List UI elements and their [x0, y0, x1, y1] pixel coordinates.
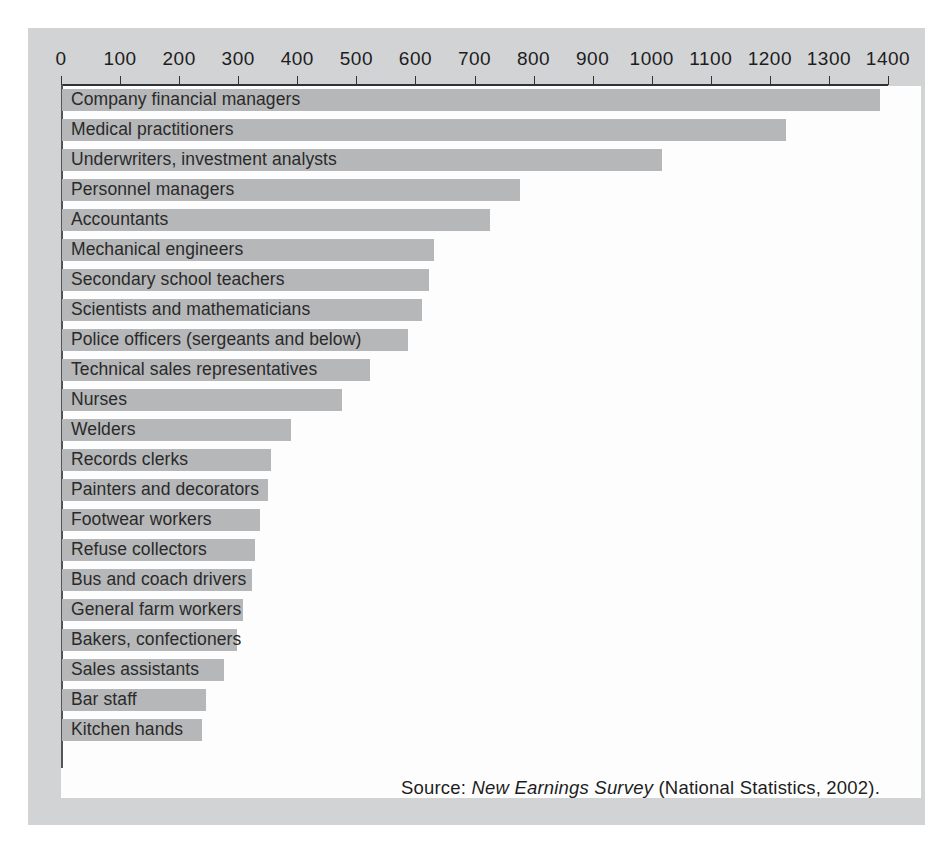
- bar-category-label: Bus and coach drivers: [71, 568, 246, 590]
- bar-category-label: Painters and decorators: [71, 478, 259, 500]
- bar-category-label: Technical sales representatives: [71, 358, 317, 380]
- x-axis-tick: [534, 76, 535, 85]
- bar-category-label: Scientists and mathematicians: [71, 298, 310, 320]
- bar-row: Personnel managers: [62, 178, 922, 208]
- x-axis-tick: [888, 76, 889, 85]
- bar-row: Mechanical engineers: [62, 238, 922, 268]
- bar-row: Records clerks: [62, 448, 922, 478]
- bar-category-label: Medical practitioners: [71, 118, 234, 140]
- bar-category-label: Nurses: [71, 388, 127, 410]
- bar-row: Footwear workers: [62, 508, 922, 538]
- bar-row: Technical sales representatives: [62, 358, 922, 388]
- bar-row: Accountants: [62, 208, 922, 238]
- x-axis-tick-label: 800: [517, 48, 550, 70]
- x-axis-tick: [415, 76, 416, 85]
- x-axis-tick-label: 600: [399, 48, 432, 70]
- bar-category-label: Company financial managers: [71, 88, 300, 110]
- x-axis-tick-label: 300: [222, 48, 255, 70]
- bar-category-label: General farm workers: [71, 598, 241, 620]
- bar-row: Nurses: [62, 388, 922, 418]
- source-title: New Earnings Survey: [471, 777, 653, 798]
- bar-row: Welders: [62, 418, 922, 448]
- bar-row: Kitchen hands: [62, 718, 922, 748]
- x-axis-tick-label: 200: [163, 48, 196, 70]
- x-axis-tick-label: 1200: [748, 48, 792, 70]
- x-axis-tick: [120, 76, 121, 85]
- bar-row: Underwriters, investment analysts: [62, 148, 922, 178]
- bar-row: General farm workers: [62, 598, 922, 628]
- x-axis-tick-label: 1300: [807, 48, 851, 70]
- bar-category-label: Records clerks: [71, 448, 188, 470]
- bar-category-label: Footwear workers: [71, 508, 212, 530]
- bar-category-label: Police officers (sergeants and below): [71, 328, 361, 350]
- x-axis-tick-label: 1000: [630, 48, 674, 70]
- x-axis-tick: [711, 76, 712, 85]
- source-suffix: (National Statistics, 2002).: [658, 777, 880, 798]
- bar-row: Bus and coach drivers: [62, 568, 922, 598]
- x-axis-tick: [652, 76, 653, 85]
- x-axis-tick: [238, 76, 239, 85]
- x-axis-tick-label: 1400: [866, 48, 910, 70]
- bar-category-label: Personnel managers: [71, 178, 234, 200]
- bar-row: Company financial managers: [62, 88, 922, 118]
- bar-category-label: Kitchen hands: [71, 718, 183, 740]
- bar-row: Police officers (sergeants and below): [62, 328, 922, 358]
- bar-series: Company financial managersMedical practi…: [62, 88, 922, 794]
- bar-row: Scientists and mathematicians: [62, 298, 922, 328]
- bar-row: Painters and decorators: [62, 478, 922, 508]
- x-axis-tick: [179, 76, 180, 85]
- x-axis-tick-label: 400: [281, 48, 314, 70]
- bar-category-label: Sales assistants: [71, 658, 199, 680]
- x-axis-tick: [829, 76, 830, 85]
- bar-row: Bakers, confectioners: [62, 628, 922, 658]
- x-axis-tick-label: 500: [340, 48, 373, 70]
- bar-row: Refuse collectors: [62, 538, 922, 568]
- bar-category-label: Refuse collectors: [71, 538, 207, 560]
- x-axis-tick: [297, 76, 298, 85]
- bar-category-label: Welders: [71, 418, 136, 440]
- bar-category-label: Underwriters, investment analysts: [71, 148, 337, 170]
- x-axis-tick: [770, 76, 771, 85]
- bar-row: Secondary school teachers: [62, 268, 922, 298]
- bar-category-label: Bakers, confectioners: [71, 628, 241, 650]
- x-axis-tick-label: 700: [458, 48, 491, 70]
- x-axis-tick: [61, 76, 62, 85]
- bar-category-label: Accountants: [71, 208, 168, 230]
- source-caption: Source: New Earnings Survey (National St…: [28, 777, 908, 799]
- bar-row: Bar staff: [62, 688, 922, 718]
- bar-category-label: Bar staff: [71, 688, 137, 710]
- figure-panel: 0100200300400500600700800900100011001200…: [28, 28, 925, 825]
- x-axis-tick-label: 100: [103, 48, 136, 70]
- x-axis-tick-label: 0: [55, 48, 66, 70]
- x-axis-tick-label: 1100: [689, 48, 732, 70]
- bar-row: Sales assistants: [62, 658, 922, 688]
- bar-category-label: Mechanical engineers: [71, 238, 243, 260]
- bar-row: Medical practitioners: [62, 118, 922, 148]
- x-axis-tick: [475, 76, 476, 85]
- figure-container: 0100200300400500600700800900100011001200…: [0, 0, 946, 855]
- x-axis-tick: [593, 76, 594, 85]
- bar-category-label: Secondary school teachers: [71, 268, 285, 290]
- x-axis-tick: [356, 76, 357, 85]
- source-prefix: Source:: [401, 777, 466, 798]
- x-axis-tick-label: 900: [576, 48, 609, 70]
